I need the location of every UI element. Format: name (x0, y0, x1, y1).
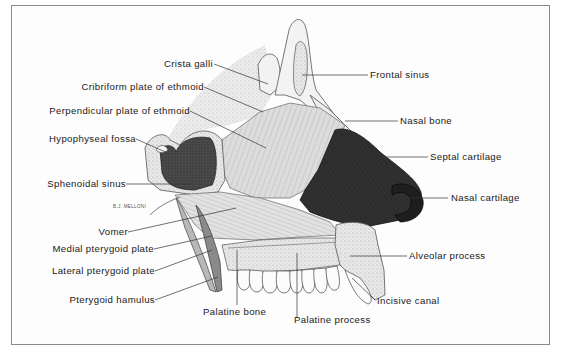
label-nasal-cartilage: Nasal cartilage (451, 192, 520, 203)
artist-signature: B.J. MELLONI (113, 204, 146, 209)
label-sphenoidal-sinus: Sphenoidal sinus (47, 178, 126, 189)
label-frontal-sinus: Frontal sinus (370, 69, 429, 80)
sphenoid (145, 131, 225, 195)
label-medial-pterygoid-plate: Medial pterygoid plate (52, 243, 154, 254)
label-vomer: Vomer (99, 226, 128, 237)
label-incisive-canal: Incisive canal (377, 295, 440, 306)
label-septal-cartilage: Septal cartilage (430, 151, 502, 162)
label-palatine-process: Palatine process (294, 314, 371, 325)
label-perpendicular-plate: Perpendicular plate of ethmoid (49, 105, 190, 116)
label-cribriform-plate: Cribriform plate of ethmoid (82, 81, 205, 92)
label-hypophyseal-fossa: Hypophyseal fossa (49, 133, 136, 144)
contour-line (150, 197, 180, 215)
label-pterygoid-hamulus: Pterygoid hamulus (70, 294, 155, 305)
label-alveolar-process: Alveolar process (409, 250, 486, 261)
label-crista-galli: Crista galli (164, 58, 213, 69)
label-palatine-bone: Palatine bone (203, 306, 266, 317)
label-nasal-bone: Nasal bone (400, 115, 452, 126)
label-lateral-pterygoid-plate: Lateral pterygoid plate (52, 265, 155, 276)
